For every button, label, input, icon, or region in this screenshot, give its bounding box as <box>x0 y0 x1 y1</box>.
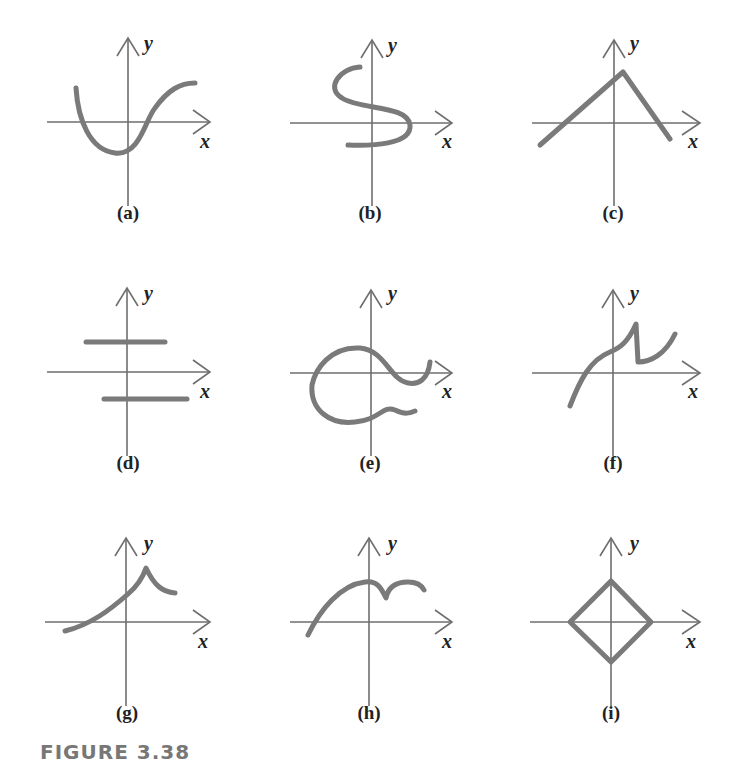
panel-caption: (b) <box>350 202 390 224</box>
y-axis-label: y <box>144 282 153 305</box>
x-axis-label: x <box>200 130 210 153</box>
x-axis-label: x <box>686 630 696 653</box>
y-axis-label: y <box>630 282 639 305</box>
y-axis-label: y <box>144 32 153 55</box>
panel-caption: (e) <box>350 452 390 474</box>
y-axis-label: y <box>144 532 153 555</box>
graph-panel-b: y x (b) <box>270 20 470 240</box>
panel-caption: (f) <box>593 452 633 474</box>
graph-panel-g: y x (g) <box>30 520 230 740</box>
x-axis-label: x <box>442 130 452 153</box>
panel-caption: (c) <box>593 202 633 224</box>
y-axis-label: y <box>630 32 639 55</box>
x-axis-label: x <box>688 130 698 153</box>
graph-panel-a: y x (a) <box>30 20 230 240</box>
figure-label: FIGURE 3.38 <box>40 740 190 764</box>
panel-caption: (a) <box>108 202 148 224</box>
graph-panel-d: y x (d) <box>30 270 230 490</box>
x-axis-label: x <box>200 380 210 403</box>
panel-caption: (i) <box>591 702 631 724</box>
y-axis-label: y <box>388 532 397 555</box>
panel-caption: (g) <box>107 702 147 724</box>
panel-caption: (d) <box>108 452 148 474</box>
y-axis-label: y <box>630 532 639 555</box>
y-axis-label: y <box>388 282 397 305</box>
x-axis-label: x <box>442 630 452 653</box>
x-axis-label: x <box>198 630 208 653</box>
panel-caption: (h) <box>349 702 389 724</box>
x-axis-label: x <box>442 380 452 403</box>
graph-panel-f: y x (f) <box>510 270 710 490</box>
graph-panel-h: y x (h) <box>270 520 470 740</box>
x-axis-label: x <box>688 380 698 403</box>
graph-panel-e: y x (e) <box>270 270 470 490</box>
y-axis-label: y <box>388 34 397 57</box>
graph-panel-c: y x (c) <box>510 20 710 240</box>
graph-panel-i: y x (i) <box>510 520 710 740</box>
